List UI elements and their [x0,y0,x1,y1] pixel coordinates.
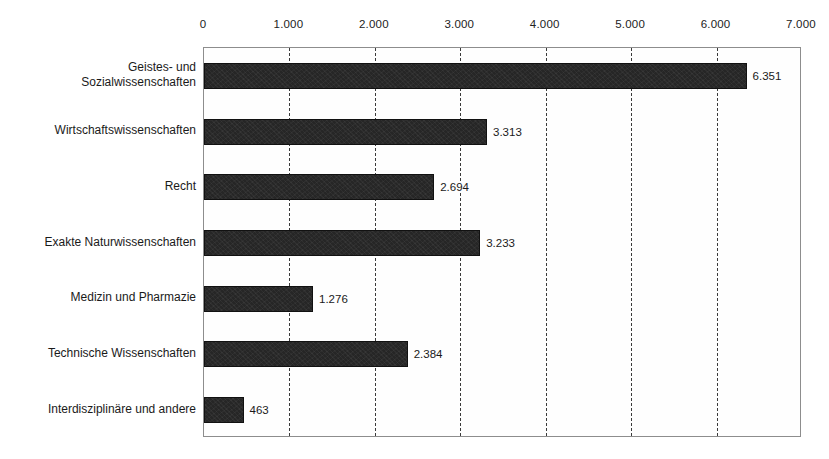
x-tick-label-4: 4.000 [530,18,560,30]
bar[interactable]: 2.694 [204,174,434,200]
bar-chart: 01.0002.0003.0004.0005.0006.0007.000 6.3… [0,0,829,459]
bar[interactable]: 6.351 [204,63,747,89]
bar[interactable]: 1.276 [204,286,313,312]
bar-value-label: 3.313 [492,126,523,138]
bar-value-label: 463 [249,404,270,416]
bar-value-label: 2.384 [413,348,444,360]
bar[interactable]: 2.384 [204,341,408,367]
bar-value-label: 3.233 [485,237,516,249]
x-tick-label-2: 2.000 [359,18,389,30]
bar[interactable]: 3.313 [204,119,487,145]
x-tick-label-0: 0 [200,18,207,30]
bar-row: 6.351 [204,48,800,104]
bar[interactable]: 463 [204,397,244,423]
bar-value-label: 1.276 [318,293,349,305]
bar-row: 463 [204,382,800,438]
bar-row: 2.384 [204,327,800,383]
bar[interactable]: 3.233 [204,230,480,256]
bar-value-label: 2.694 [439,181,470,193]
category-label-2: Recht [0,179,196,194]
bar-row: 1.276 [204,271,800,327]
x-tick-label-1: 1.000 [274,18,304,30]
x-tick-label-5: 5.000 [615,18,645,30]
x-tick-label-6: 6.000 [701,18,731,30]
category-label-4: Medizin und Pharmazie [0,290,196,305]
bar-row: 2.694 [204,159,800,215]
x-tick-label-7: 7.000 [786,18,816,30]
category-label-5: Technische Wissenschaften [0,346,196,361]
bar-row: 3.313 [204,104,800,160]
bar-value-label: 6.351 [752,70,783,82]
bar-row: 3.233 [204,215,800,271]
x-tick-label-3: 3.000 [444,18,474,30]
plot-area: 6.3513.3132.6943.2331.2762.384463 [203,47,801,437]
category-label-3: Exakte Naturwissenschaften [0,235,196,250]
category-label-0: Geistes- und Sozialwissenschaften [0,60,196,90]
category-label-1: Wirtschaftswissenschaften [0,123,196,138]
category-label-6: Interdisziplinäre und andere [0,402,196,417]
